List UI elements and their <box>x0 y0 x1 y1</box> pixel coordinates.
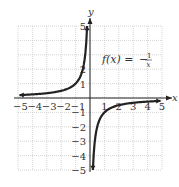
function-numerator: 1 <box>147 52 151 60</box>
axes: x y <box>14 6 178 172</box>
y-tick-label: −3 <box>71 136 86 147</box>
x-tick-label: −3 <box>42 101 57 112</box>
y-tick-label: −1 <box>71 107 86 118</box>
function-graph: x y −5−4−3−2−112345521−1−2−3−4−5 f(x) = … <box>0 0 179 187</box>
function-lhs: f(x) = <box>101 53 134 66</box>
y-tick-label: 5 <box>80 21 86 32</box>
y-tick-label: −2 <box>71 122 86 133</box>
function-label: f(x) = − 1 x <box>101 52 152 69</box>
left-branch-curve <box>19 26 87 95</box>
y-axis-label: y <box>87 6 94 17</box>
x-tick-label: −5 <box>13 101 28 112</box>
x-tick-label: −4 <box>27 101 42 112</box>
x-axis-label: x <box>172 92 178 103</box>
x-tick-label: −2 <box>56 101 71 112</box>
x-tick-label: 5 <box>159 101 165 112</box>
function-denominator: x <box>147 61 151 69</box>
y-tick-label: −5 <box>71 165 86 176</box>
arrowhead-down-icon <box>90 166 95 170</box>
arrowhead-left-icon <box>19 92 23 97</box>
y-tick-label: −4 <box>71 151 86 162</box>
y-tick-label: 1 <box>80 79 86 90</box>
y-axis-arrow-icon <box>88 18 93 24</box>
